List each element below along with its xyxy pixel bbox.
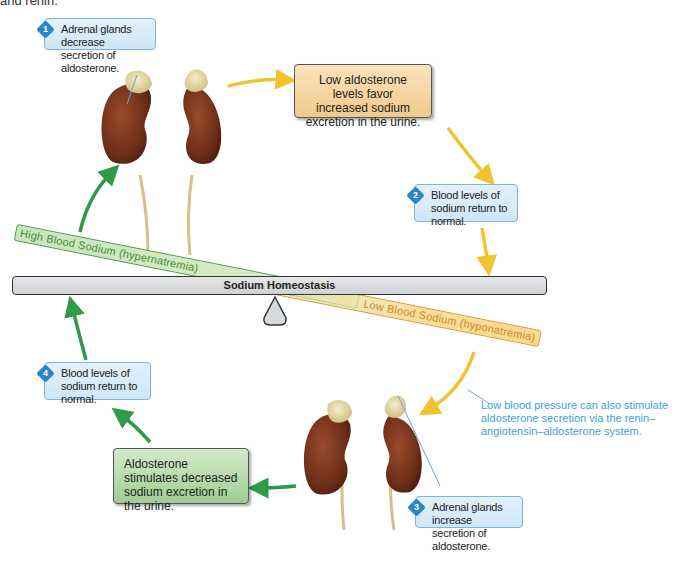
callout-step-1: 1 Adrenal glands decrease secretion of a… [44,18,156,50]
arrow-yellow-4 [428,352,474,410]
renin-angiotensin-note: Low blood pressure can also stimulate al… [481,399,679,438]
callout-step-4: 4 Blood levels of sodium return to norma… [44,362,151,400]
arrow-green-3 [72,306,86,360]
callout-step-2-text: Blood levels of sodium return to normal. [431,189,507,227]
arrow-green-1 [258,486,296,488]
low-aldosterone-box: Low aldosterone levels favor increased s… [294,64,432,118]
aldosterone-stimulates-box: Aldosterone stimulates decreased sodium … [113,448,249,504]
callout-step-2: 2 Blood levels of sodium return to norma… [414,184,518,222]
sodium-homeostasis-beam: Sodium Homeostasis [12,276,547,295]
beam-label: Sodium Homeostasis [224,279,336,291]
arrow-green-2 [120,414,150,442]
arrow-yellow-1 [228,80,286,86]
kidney-left-bottom [304,400,352,530]
callout-step-3: 3 Adrenal glands increase secretion of a… [415,496,523,528]
arrow-green-4 [80,172,112,232]
fulcrum-icon [264,297,286,325]
arrow-yellow-3 [482,228,488,266]
kidney-right-top [183,69,221,255]
low-aldosterone-text: Low aldosterone levels favor increased s… [306,73,421,129]
arrow-yellow-2 [448,128,488,178]
kidney-left-top [102,70,152,255]
callout-step-4-text: Blood levels of sodium return to normal. [61,367,137,405]
